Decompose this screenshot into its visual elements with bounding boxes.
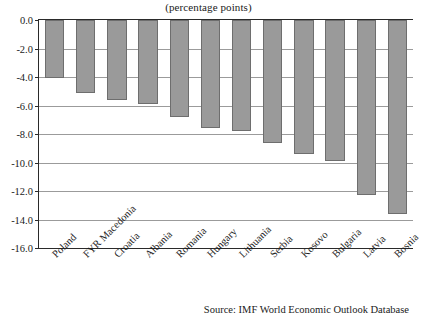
y-axis-tick-label: -12.0 xyxy=(11,186,33,197)
bar xyxy=(388,20,407,214)
plot-area: 0.0-2.0-4.0-6.0-8.0-10.0-12.0-14.0-16.0 xyxy=(38,19,413,249)
y-axis-tick xyxy=(35,248,39,249)
bar xyxy=(263,20,282,143)
y-axis-tick-label: -14.0 xyxy=(11,214,33,225)
bar xyxy=(76,20,95,93)
y-axis-tick-label: -16.0 xyxy=(11,243,33,254)
x-axis-labels: PolandFYR MacedoniaCroatiaAlbaniaRomania… xyxy=(38,250,413,302)
bar xyxy=(107,20,126,100)
y-axis-tick-label: 0.0 xyxy=(20,15,33,26)
bar xyxy=(357,20,376,195)
source-note: Source: IMF World Economic Outlook Datab… xyxy=(0,304,409,315)
bar xyxy=(138,20,157,104)
bar xyxy=(170,20,189,117)
y-axis-tick-label: -6.0 xyxy=(16,100,33,111)
y-axis-tick-label: -2.0 xyxy=(16,43,33,54)
bar xyxy=(201,20,220,128)
y-axis-tick-label: -10.0 xyxy=(11,157,33,168)
chart-subtitle: (percentage points) xyxy=(0,1,417,13)
y-axis-tick-label: -8.0 xyxy=(16,129,33,140)
y-axis-tick-label: -4.0 xyxy=(16,72,33,83)
bar xyxy=(294,20,313,154)
bar xyxy=(45,20,64,78)
bar-series xyxy=(39,20,413,248)
bar xyxy=(232,20,251,131)
bar xyxy=(325,20,344,161)
